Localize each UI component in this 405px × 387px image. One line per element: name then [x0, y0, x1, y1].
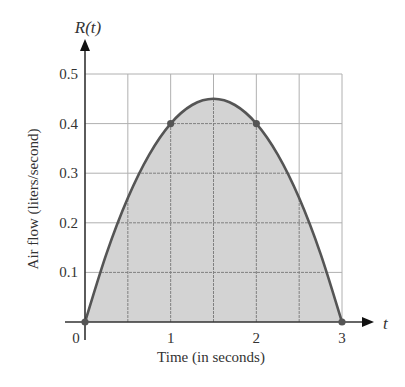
data-point	[253, 120, 260, 127]
x-axis-arrow-icon	[362, 317, 374, 327]
y-axis-title: Air flow (liters/second)	[25, 129, 42, 270]
y-tick-label: 0.4	[59, 116, 78, 132]
x-tick-label: 1	[167, 330, 175, 346]
function-label: R(t)	[74, 18, 102, 37]
y-tick-label: 0.3	[59, 165, 78, 181]
y-axis-arrow-icon	[80, 39, 90, 51]
y-tick-labels: 0.10.20.30.40.5	[59, 66, 78, 280]
x-tick-label: 2	[253, 330, 261, 346]
x-tick-label: 0	[72, 330, 80, 346]
y-tick-label: 0.5	[59, 66, 78, 82]
data-point	[167, 120, 174, 127]
data-point	[81, 318, 88, 325]
x-axis-title: Time (in seconds)	[157, 349, 265, 366]
data-point	[338, 318, 345, 325]
air-flow-chart: 0.10.20.30.40.5 0123 R(t) t Time (in sec…	[0, 0, 405, 387]
y-tick-label: 0.1	[59, 264, 78, 280]
x-tick-labels: 0123	[72, 330, 346, 346]
y-tick-label: 0.2	[59, 215, 78, 231]
x-tick-label: 3	[338, 330, 346, 346]
x-axis-symbol: t	[383, 314, 389, 333]
